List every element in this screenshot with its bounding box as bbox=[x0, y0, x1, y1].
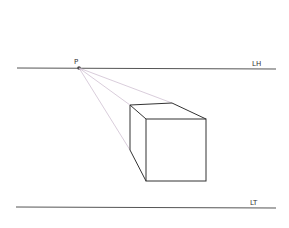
vanishing-point-label: P bbox=[74, 58, 78, 66]
perspective-diagram: LH LT P bbox=[0, 0, 289, 228]
horizon-line-label: LH bbox=[252, 60, 261, 68]
cube bbox=[130, 103, 206, 181]
ground-line bbox=[16, 207, 276, 208]
cube-top-face bbox=[130, 103, 206, 119]
construction-lines bbox=[79, 68, 172, 150]
cube-front-face bbox=[146, 119, 206, 181]
ground-line-label: LT bbox=[250, 199, 258, 207]
horizon-line bbox=[17, 68, 276, 69]
